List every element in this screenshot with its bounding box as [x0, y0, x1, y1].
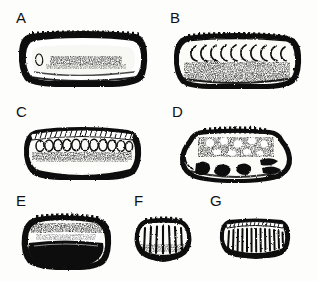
panel-label-g: G	[210, 193, 222, 208]
specimen-f	[130, 212, 196, 266]
specimen-b	[170, 28, 304, 92]
panel-label-a: A	[16, 10, 27, 25]
specimen-g	[216, 214, 294, 264]
specimen-plate: A	[0, 0, 318, 281]
specimen-e	[18, 210, 114, 272]
panel-label-c: C	[16, 104, 27, 119]
specimen-d	[176, 120, 298, 186]
panel-label-e: E	[16, 193, 27, 208]
panel-label-f: F	[134, 193, 144, 208]
panel-label-b: B	[170, 10, 181, 25]
specimen-a	[16, 28, 150, 90]
specimen-c	[20, 120, 144, 182]
panel-label-d: D	[172, 104, 183, 119]
